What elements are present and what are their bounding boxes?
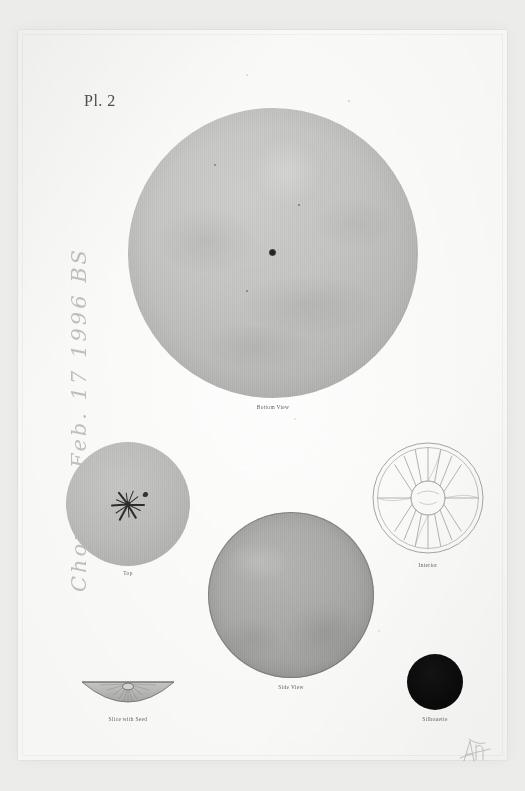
paper-speck	[348, 100, 350, 102]
specimen-interior-body	[370, 440, 486, 556]
paper-sheet: Pl. 2 Chorus - Feb. 17 1996 BS Bottom Vi…	[18, 30, 507, 760]
figure-top: Top	[66, 442, 190, 566]
specimen-slice-body	[80, 678, 176, 712]
figure-silhouette: Silhouette	[407, 654, 463, 710]
paper-speck	[246, 74, 248, 76]
paper-speck	[294, 418, 296, 420]
figure-caption: Silhouette	[422, 716, 447, 722]
artist-signature	[455, 736, 495, 766]
detached-seed-icon	[142, 491, 148, 497]
figure-slice-with-seed: Slice with Seed	[80, 678, 176, 712]
surface-fleck	[246, 290, 248, 292]
figure-caption: Side View	[278, 684, 303, 690]
figure-caption: Bottom View	[257, 404, 290, 410]
surface-mottling	[208, 512, 374, 678]
figure-side-view: Side View	[208, 512, 374, 678]
figure-interior: Interior	[370, 440, 486, 556]
specimen-silhouette-body	[407, 654, 463, 710]
cross-section-diagram-icon	[370, 440, 486, 556]
figure-caption: Slice with Seed	[109, 716, 148, 722]
specimen-side-view-body	[208, 512, 374, 678]
specimen-top-body	[66, 442, 190, 566]
half-dome-slice-icon	[80, 678, 176, 712]
specimen-bottom-view-body	[128, 108, 418, 398]
plate-number: Pl. 2	[84, 92, 116, 110]
figure-caption: Interior	[419, 562, 438, 568]
surface-fleck	[214, 164, 216, 166]
blossom-end-scar-icon	[269, 249, 276, 256]
figure-bottom-view: Bottom View	[128, 108, 418, 398]
figure-caption: Top	[123, 570, 132, 576]
paper-speck	[378, 630, 380, 632]
seed-icon	[123, 683, 134, 690]
surface-fleck	[298, 204, 300, 206]
plate-screen: Pl. 2 Chorus - Feb. 17 1996 BS Bottom Vi…	[0, 0, 525, 791]
